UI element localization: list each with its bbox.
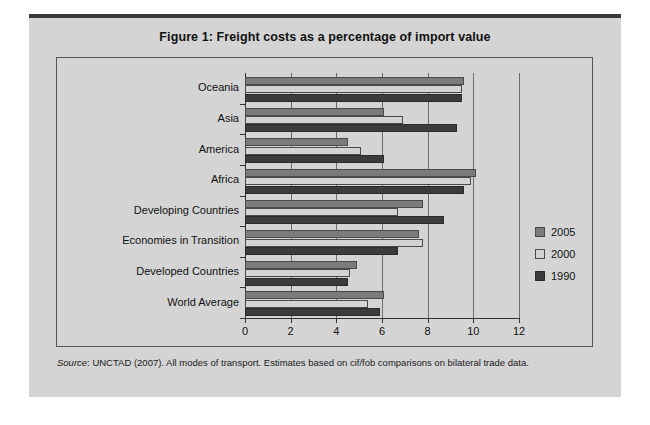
x-tick-0: [245, 318, 246, 323]
bar-group: Developed Countries: [245, 257, 519, 288]
top-rule-divider: [29, 14, 621, 18]
x-tick-label-6: 6: [367, 325, 397, 337]
x-tick-label-8: 8: [413, 325, 443, 337]
legend-item-1990: 1990: [535, 265, 615, 287]
x-tick-label-12: 12: [504, 325, 534, 337]
source-note: Source: UNCTAD (2007). All modes of tran…: [57, 357, 597, 368]
bar-1990: [245, 94, 462, 102]
source-label: Source: [57, 357, 87, 368]
bar-2000: [245, 239, 423, 247]
category-label: Oceania: [198, 81, 239, 93]
bar-group: World Average: [245, 287, 519, 318]
bar-1990: [245, 278, 348, 286]
category-label: Asia: [218, 112, 239, 124]
bar-2000: [245, 300, 368, 308]
figure-container: Figure 1: Freight costs as a percentage …: [29, 14, 621, 397]
bar-group: America: [245, 134, 519, 165]
legend-swatch-2005: [535, 227, 545, 237]
bar-2005: [245, 261, 357, 269]
bar-2005: [245, 230, 419, 238]
x-tick-8: [428, 318, 429, 323]
chart-legend: 200520001990: [535, 221, 615, 287]
bar-group: Asia: [245, 104, 519, 135]
category-label: World Average: [167, 296, 239, 308]
bar-2000: [245, 85, 462, 93]
legend-label-2005: 2005: [551, 226, 575, 238]
bar-1990: [245, 247, 398, 255]
category-label: America: [199, 143, 239, 155]
legend-swatch-1990: [535, 271, 545, 281]
page-title: Figure 1: Freight costs as a percentage …: [29, 30, 621, 44]
bar-1990: [245, 308, 380, 316]
category-label: Developed Countries: [136, 265, 239, 277]
bar-2005: [245, 138, 348, 146]
bar-2000: [245, 269, 350, 277]
x-tick-2: [291, 318, 292, 323]
legend-item-2005: 2005: [535, 221, 615, 243]
x-tick-12: [519, 318, 520, 323]
x-tick-label-10: 10: [458, 325, 488, 337]
legend-label-2000: 2000: [551, 248, 575, 260]
source-text: : UNCTAD (2007). All modes of transport.…: [87, 357, 529, 368]
chart-frame: OceaniaAsiaAmericaAfricaDeveloping Count…: [56, 57, 593, 347]
x-tick-label-0: 0: [230, 325, 260, 337]
bar-group: Economies in Transition: [245, 226, 519, 257]
bar-1990: [245, 155, 384, 163]
bar-2005: [245, 200, 423, 208]
bar-1990: [245, 216, 444, 224]
gridline-12: [519, 73, 520, 318]
bar-group: Africa: [245, 165, 519, 196]
category-label: Developing Countries: [134, 204, 239, 216]
x-tick-10: [473, 318, 474, 323]
category-label: Africa: [211, 173, 239, 185]
x-tick-label-2: 2: [276, 325, 306, 337]
bar-2000: [245, 208, 398, 216]
x-tick-6: [382, 318, 383, 323]
legend-label-1990: 1990: [551, 270, 575, 282]
x-tick-4: [336, 318, 337, 323]
legend-item-2000: 2000: [535, 243, 615, 265]
bar-2005: [245, 108, 384, 116]
legend-swatch-2000: [535, 249, 545, 259]
bar-1990: [245, 186, 464, 194]
bar-2005: [245, 169, 476, 177]
bar-2000: [245, 116, 403, 124]
x-tick-label-4: 4: [321, 325, 351, 337]
bar-2000: [245, 177, 471, 185]
bar-group: Developing Countries: [245, 196, 519, 227]
bar-group: Oceania: [245, 73, 519, 104]
plot-area: OceaniaAsiaAmericaAfricaDeveloping Count…: [245, 73, 519, 318]
bar-1990: [245, 124, 457, 132]
bar-2005: [245, 291, 384, 299]
bar-2000: [245, 147, 361, 155]
category-label: Economies in Transition: [122, 234, 239, 246]
bar-2005: [245, 77, 464, 85]
